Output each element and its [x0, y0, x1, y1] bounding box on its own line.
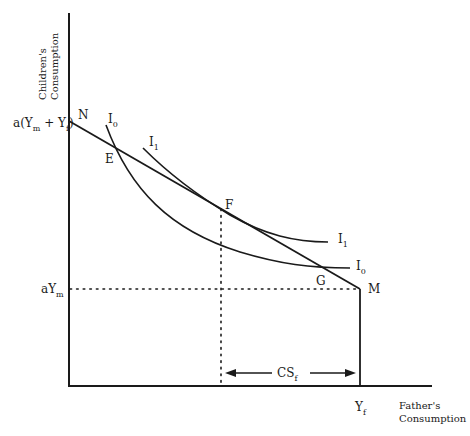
svg-text:Children's: Children's — [37, 48, 48, 100]
curve-label-i0-right: I0 — [356, 259, 366, 276]
point-label-f: F — [225, 198, 233, 212]
y-tick-total-income: a(Ym + Yf) — [13, 116, 74, 133]
curve-label-i1-top: I1 — [149, 135, 159, 152]
arrow-right-icon — [345, 369, 356, 377]
svg-text:Consumption: Consumption — [49, 32, 60, 100]
arrow-left-icon — [225, 369, 236, 377]
svg-text:Father's: Father's — [399, 400, 440, 411]
x-axis-title: Father's Consumption — [399, 400, 467, 424]
curve-label-i1-right: I1 — [338, 232, 348, 249]
point-label-e: E — [105, 152, 114, 166]
y-axis-title: Children's Consumption — [37, 32, 60, 100]
curve-label-i0-top: I0 — [108, 112, 118, 129]
indifference-curve-i1 — [143, 148, 328, 242]
point-label-g: G — [316, 274, 326, 288]
point-label-n: N — [78, 108, 89, 122]
indifference-curve-i0 — [106, 125, 350, 268]
x-tick-yf: Yf — [354, 400, 367, 417]
cs-f-label: CSf — [277, 366, 298, 383]
svg-text:Consumption: Consumption — [399, 413, 467, 424]
point-label-m: M — [368, 282, 380, 296]
diagram-canvas: Children's Consumption Father's Consumpt… — [0, 0, 470, 436]
y-tick-aym: aYm — [41, 282, 64, 299]
